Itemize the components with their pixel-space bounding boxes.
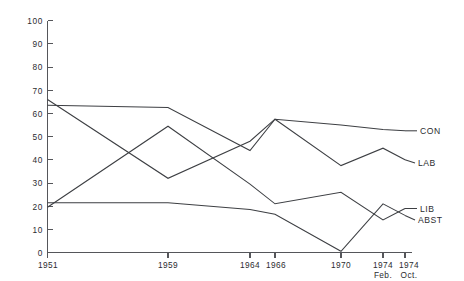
x-tick-label-1966: 1966: [266, 260, 286, 270]
x-tick-label-1959: 1959: [158, 260, 178, 270]
x-tick-sublabel-1974-feb: Feb.: [374, 270, 392, 280]
x-tick-label-1974-oct: 1974: [399, 260, 419, 270]
series-line-lib: [48, 126, 406, 220]
series-label-leaders: [405, 131, 417, 220]
y-tick-label-60: 60: [33, 109, 43, 119]
series-line-con: [48, 105, 406, 150]
y-tick-label-100: 100: [27, 16, 43, 26]
series-label-con: CON: [420, 126, 441, 136]
y-tick-label-40: 40: [33, 155, 43, 165]
series-label-lib: LIB: [420, 204, 434, 214]
series-label-lab: LAB: [418, 158, 436, 168]
y-tick-label-30: 30: [33, 178, 43, 188]
y-tick-label-20: 20: [33, 202, 43, 212]
line-chart: 100 90 80 70 60 50 40 30 20 10 0 1951 19…: [0, 0, 464, 281]
x-tick-label-1951: 1951: [38, 260, 58, 270]
x-tick-label-1974-feb: 1974: [373, 260, 393, 270]
series-lines: [48, 100, 406, 252]
y-tick-label-50: 50: [33, 132, 43, 142]
chart-page: 100 90 80 70 60 50 40 30 20 10 0 1951 19…: [0, 0, 464, 281]
x-tick-label-1964: 1964: [240, 260, 260, 270]
y-tick-label-70: 70: [33, 86, 43, 96]
series-labels: CON LAB LIB ABST: [418, 126, 443, 225]
series-line-abst: [48, 203, 406, 252]
y-tick-label-0: 0: [38, 248, 43, 258]
leader-line-abst: [405, 215, 415, 220]
series-line-lab: [48, 100, 406, 179]
chart-axes: [48, 21, 413, 253]
leader-line-lab: [405, 160, 415, 163]
x-tick-marks: [48, 253, 406, 259]
x-tick-sublabel-1974-oct: Oct.: [401, 270, 418, 280]
y-tick-labels: 100 90 80 70 60 50 40 30 20 10 0: [27, 16, 43, 258]
x-tick-labels: 1951 1959 1964 1966 1970 1974 1974 Feb. …: [38, 260, 419, 280]
series-label-abst: ABST: [418, 215, 443, 225]
x-tick-label-1970: 1970: [331, 260, 351, 270]
y-tick-label-80: 80: [33, 62, 43, 72]
y-tick-label-90: 90: [33, 39, 43, 49]
y-tick-label-10: 10: [33, 225, 43, 235]
y-tick-marks: [48, 21, 54, 230]
